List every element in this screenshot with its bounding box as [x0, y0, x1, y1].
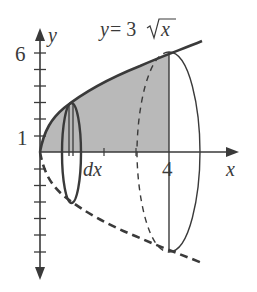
volume-diagram: y x 6 1 4 dx y = 3 x: [0, 0, 257, 292]
shaded-region: [40, 52, 169, 152]
svg-text:y: y: [98, 18, 109, 41]
curve-equation-label: y = 3 x: [98, 18, 176, 41]
svg-text:x: x: [160, 18, 170, 40]
y-axis-arrow-down-icon: [35, 267, 45, 280]
y-axis-label: y: [46, 24, 57, 47]
lower-curve-dashed: [40, 152, 202, 263]
x-axis-label: x: [225, 158, 235, 180]
x-axis-arrow-right-icon: [226, 147, 239, 157]
y-tick-label-1: 1: [17, 126, 28, 150]
y-tick-label-6: 6: [15, 42, 26, 66]
slice-width-label: dx: [83, 158, 102, 180]
svg-text:= 3: = 3: [110, 18, 136, 40]
x-tick-label-4: 4: [162, 157, 173, 181]
y-axis-arrow-up-icon: [35, 28, 45, 41]
